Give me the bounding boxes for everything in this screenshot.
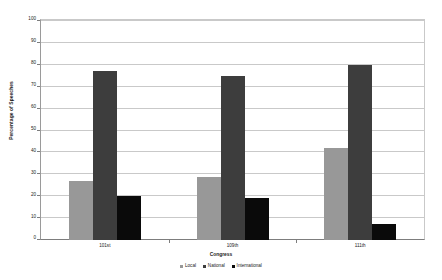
x-axis-tick-mark — [296, 240, 297, 243]
x-axis-tick-mark — [169, 240, 170, 243]
bar-international — [117, 196, 141, 240]
bar-group — [69, 20, 141, 240]
x-axis-tick-label: 101st — [75, 244, 135, 249]
y-axis-tick: 50 — [0, 130, 40, 131]
legend-item-international[interactable]: International — [232, 264, 262, 269]
y-axis-tick-mark — [37, 42, 40, 43]
bars-layer — [41, 20, 424, 240]
y-axis-tick-mark — [37, 195, 40, 196]
y-axis-tick-label: 80 — [31, 61, 36, 66]
y-axis-tick-mark — [37, 239, 40, 240]
y-axis-tick: 30 — [0, 173, 40, 174]
y-axis-tick: 90 — [0, 42, 40, 43]
y-axis-tick: 40 — [0, 151, 40, 152]
bar-local — [197, 177, 221, 241]
y-axis-tick: 100 — [0, 20, 40, 21]
bar-local — [69, 181, 93, 240]
y-axis-tick-mark — [37, 173, 40, 174]
y-axis-tick-label: 50 — [31, 127, 36, 132]
y-axis-tick-label: 0 — [33, 236, 36, 241]
y-axis-tick-mark — [37, 217, 40, 218]
bar-international — [372, 224, 396, 240]
y-axis-tick-label: 20 — [31, 193, 36, 198]
y-axis-tick-mark — [37, 86, 40, 87]
y-axis-tick: 20 — [0, 195, 40, 196]
chart-legend: LocalNationalInternational — [0, 264, 442, 269]
y-axis-tick-label: 40 — [31, 149, 36, 154]
legend-label: National — [208, 264, 225, 269]
x-axis-title: Congress — [0, 253, 442, 258]
bar-group — [197, 20, 269, 240]
bar-local — [324, 148, 348, 240]
y-axis-tick: 60 — [0, 108, 40, 109]
y-axis-title: Percentage of Speeches — [10, 60, 15, 160]
y-axis-tick-label: 60 — [31, 105, 36, 110]
bar-international — [245, 198, 269, 240]
legend-item-local[interactable]: Local — [180, 264, 196, 269]
legend-swatch-icon — [203, 265, 206, 268]
legend-item-national[interactable]: National — [203, 264, 225, 269]
y-axis-tick: 70 — [0, 86, 40, 87]
y-axis-tick-mark — [37, 130, 40, 131]
y-axis-tick: 80 — [0, 64, 40, 65]
x-axis-tick-label: 111th — [330, 244, 390, 249]
y-axis-tick-label: 100 — [28, 17, 36, 22]
y-axis-tick-mark — [37, 151, 40, 152]
legend-swatch-icon — [180, 265, 183, 268]
y-axis-tick: 0 — [0, 239, 40, 240]
y-axis-tick-label: 10 — [31, 215, 36, 220]
y-axis-tick-label: 90 — [31, 39, 36, 44]
bar-chart: 0102030405060708090100 Percentage of Spe… — [0, 0, 442, 280]
y-axis-tick-label: 70 — [31, 83, 36, 88]
y-axis-tick-mark — [37, 20, 40, 21]
y-axis-tick-label: 30 — [31, 171, 36, 176]
bar-national — [93, 71, 117, 240]
bar-group — [324, 20, 396, 240]
legend-swatch-icon — [232, 265, 235, 268]
legend-label: Local — [185, 264, 196, 269]
legend-label: International — [237, 264, 262, 269]
y-axis-tick-mark — [37, 108, 40, 109]
x-axis-tick-label: 109th — [203, 244, 263, 249]
bar-national — [348, 65, 372, 240]
y-axis-tick: 10 — [0, 217, 40, 218]
bar-national — [221, 76, 245, 240]
y-axis-tick-mark — [37, 64, 40, 65]
